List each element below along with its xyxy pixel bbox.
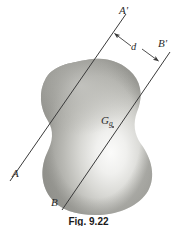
body-blob bbox=[41, 59, 152, 215]
figure-drawing bbox=[0, 0, 177, 226]
axis-label-b-prime: B' bbox=[158, 38, 167, 49]
distance-label-d: d bbox=[131, 42, 136, 53]
axis-label-b: B bbox=[51, 197, 58, 208]
centroid-label-subscript: g bbox=[109, 119, 113, 128]
dimension-arrow-to-aa-prime bbox=[115, 34, 132, 47]
centroid-label: Gg bbox=[101, 115, 113, 128]
axis-label-a-prime: A' bbox=[119, 5, 128, 16]
axis-label-a: A bbox=[12, 168, 19, 179]
figure-container: A' B' d A B Gg Fig. 9.22 bbox=[0, 0, 177, 226]
figure-caption: Fig. 9.22 bbox=[0, 216, 177, 226]
centroid-label-main: G bbox=[101, 114, 109, 126]
dimension-arrow-to-bb-prime bbox=[142, 49, 159, 61]
